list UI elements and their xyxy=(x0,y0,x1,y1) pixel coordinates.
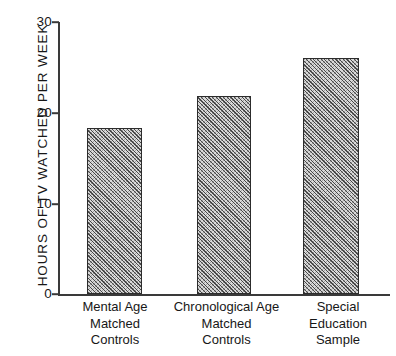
x-axis-label-group-2: Chronological Age Matched Controls xyxy=(163,299,290,349)
y-tick-label-0: 0 xyxy=(18,287,52,301)
x-axis-label-2-line-2: Matched xyxy=(163,316,290,333)
y-tick-label-10: 10 xyxy=(18,197,52,211)
x-axis-label-3-line-2: Education xyxy=(286,316,390,333)
bar-mental-age-matched-controls xyxy=(87,128,142,294)
x-axis-label-1-line-2: Matched xyxy=(57,316,173,333)
bar-special-education-sample xyxy=(303,58,359,294)
bar-chart-figure: HOURS OF TV WATCHED PER WEEK 0 10 20 30 … xyxy=(0,0,396,356)
x-axis-label-group-1: Mental Age Matched Controls xyxy=(57,299,173,349)
x-axis-line xyxy=(58,294,390,296)
x-axis-label-1-line-3: Controls xyxy=(57,332,173,349)
bar-chronological-age-matched-controls xyxy=(197,96,251,294)
y-axis-line xyxy=(58,22,60,295)
x-axis-label-3-line-3: Sample xyxy=(286,332,390,349)
x-axis-label-3-line-1: Special xyxy=(286,299,390,316)
x-axis-label-1-line-1: Mental Age xyxy=(57,299,173,316)
y-tick-label-30: 30 xyxy=(18,15,52,29)
x-axis-label-2-line-3: Controls xyxy=(163,332,290,349)
y-axis-tick-labels: 0 10 20 30 xyxy=(18,0,52,356)
y-tick-label-20: 20 xyxy=(18,106,52,120)
x-axis-label-2-line-1: Chronological Age xyxy=(163,299,290,316)
x-axis-label-group-3: Special Education Sample xyxy=(286,299,390,349)
